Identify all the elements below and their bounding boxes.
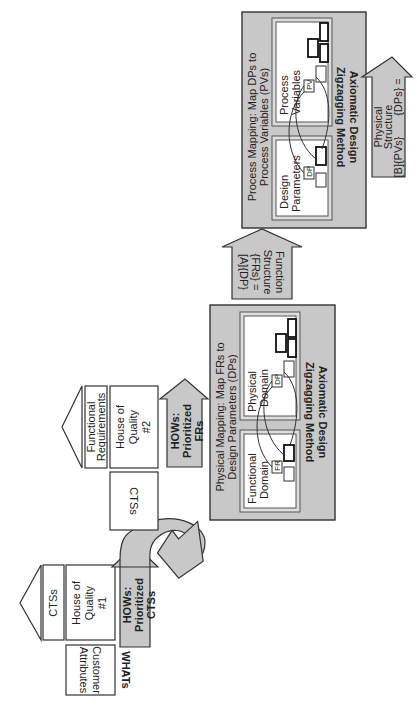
process-method-line2: Zigzagging Method	[335, 67, 347, 167]
hows-frs-line1: HOWs:	[169, 413, 181, 450]
rotated-diagram: Customer Attributes WHATs House of Quali…	[0, 0, 417, 717]
physical-structure-line4: [B]{PVs}	[392, 136, 404, 177]
hoq2-line3: #2	[140, 421, 152, 433]
customer-attributes-line2: Attributes	[78, 647, 90, 694]
process-mapping-panel: Process Mapping: Map DPs to Process Vari…	[242, 12, 366, 228]
physical-domain-line1: Physical	[246, 371, 258, 412]
physical-mapping-panel: Physical Mapping: Map FRs to Design Para…	[210, 305, 335, 520]
design-parameters-line1: Design	[278, 175, 290, 209]
hoq2-line2: Quality	[127, 409, 139, 444]
functional-domain-line2: Domain	[258, 461, 270, 499]
physical-structure-line3: {DPs} =	[392, 78, 404, 116]
process-variables-line1: Process	[278, 75, 290, 115]
function-structure-line2: Structure	[262, 250, 274, 295]
dp-node: DP	[273, 374, 282, 385]
customer-attributes-line1: Customer	[91, 646, 103, 694]
fr-node: FR	[273, 460, 282, 471]
hows-frs-line3: FRs	[193, 421, 205, 442]
pv-node: PV	[305, 79, 314, 90]
function-structure-line1: Function	[274, 251, 286, 293]
hoq1-group: Customer Attributes WHATs House of Quali…	[20, 519, 211, 695]
process-method-line1: Axiomatic Design	[348, 71, 360, 164]
hows-ctss-line3: CTSs	[145, 591, 157, 619]
hoq1-ctss-label: CTSs	[47, 589, 59, 617]
process-mapping-title-line1: Process Mapping: Map DPs to	[246, 53, 258, 202]
function-structure-line3: {FRs} =	[250, 254, 262, 291]
hows-ctss-line2: Prioritized	[133, 578, 145, 632]
physical-mapping-title-line1: Physical Mapping: Map FRs to	[214, 342, 226, 491]
hoq1-line2: Quality	[83, 585, 95, 620]
ctss-input-label: CTSs	[128, 487, 140, 515]
whats-label: WHATs	[120, 651, 132, 688]
hows-ctss-line1: HOWs:	[121, 587, 133, 624]
hoq2-group: House of Quality #2 Functional Requireme…	[62, 379, 233, 468]
hoq1-line3: #1	[96, 597, 108, 609]
hows-frs-line2: Prioritized	[181, 404, 193, 458]
hoq2-roof	[62, 386, 82, 468]
dp-node-2: DP	[305, 166, 314, 177]
functional-domain-line1: Functional	[246, 453, 258, 504]
physical-method-line2: Zigzagging Method	[304, 362, 316, 462]
design-parameters-line2: Parameters	[290, 155, 302, 212]
hoq2-line1: House of	[114, 404, 126, 449]
hoq1-line1: House of	[70, 580, 82, 625]
process-mapping-title-line2: Process Variables (PVs)	[258, 68, 270, 186]
physical-mapping-title-line2: Design Parameters (DPs)	[226, 354, 238, 479]
hoq1-roof	[20, 565, 41, 640]
physical-method-line1: Axiomatic Design	[317, 366, 329, 459]
function-structure-line4: [A]{DP}	[238, 254, 250, 290]
hoq2-fr-label-line2: Requirements	[95, 392, 107, 461]
